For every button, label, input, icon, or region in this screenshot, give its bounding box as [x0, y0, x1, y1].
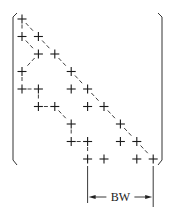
- matrix-entry-plus: [18, 15, 27, 24]
- matrix-entry-plus: [149, 155, 158, 164]
- matrix-entries: [18, 15, 158, 164]
- matrix-entry-plus: [132, 137, 141, 146]
- matrix-entry-plus: [100, 102, 109, 111]
- matrix-entry-plus: [18, 67, 27, 76]
- matrix-entry-plus: [100, 155, 109, 164]
- matrix-entry-plus: [132, 155, 141, 164]
- matrix-entry-plus: [50, 102, 59, 111]
- left-matrix-bracket: [13, 13, 17, 165]
- matrix-entry-plus: [34, 50, 43, 59]
- matrix-entry-plus: [67, 120, 76, 129]
- matrix-entry-plus: [83, 102, 92, 111]
- matrix-entry-plus: [34, 32, 43, 41]
- matrix-entry-plus: [18, 32, 27, 41]
- band-matrix-diagram: BW: [0, 0, 172, 222]
- matrix-entry-plus: [116, 137, 125, 146]
- matrix-entry-plus: [18, 85, 27, 94]
- matrix-entry-plus: [67, 137, 76, 146]
- matrix-entry-plus: [83, 85, 92, 94]
- bw-right-arrowhead-icon: [145, 195, 152, 199]
- bw-label: BW: [111, 190, 131, 204]
- matrix-entry-plus: [83, 137, 92, 146]
- matrix-entry-plus: [67, 67, 76, 76]
- matrix-entry-plus: [34, 102, 43, 111]
- matrix-entry-plus: [34, 85, 43, 94]
- matrix-entry-plus: [83, 155, 92, 164]
- bw-left-arrowhead-icon: [89, 195, 96, 199]
- matrix-entry-plus: [50, 50, 59, 59]
- matrix-entry-plus: [67, 85, 76, 94]
- profile-dashed-line: [22, 25, 88, 154]
- bandwidth-indicator: BW: [88, 166, 154, 207]
- right-matrix-bracket: [158, 13, 162, 165]
- matrix-entry-plus: [116, 120, 125, 129]
